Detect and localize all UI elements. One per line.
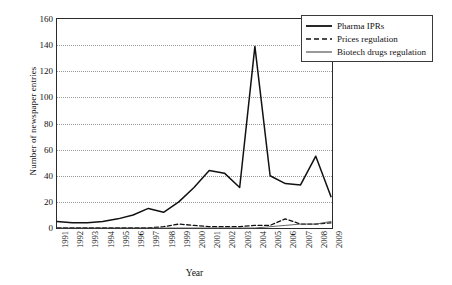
line-chart: Number of newspaper entries 020406080100… [0,0,452,285]
legend-label: Pharma IPRs [337,21,384,31]
y-axis-tick-label: 20 [44,197,53,207]
x-axis-tick-label: 2001 [212,231,222,248]
x-axis-tick-label: 2002 [227,231,237,248]
y-axis-tick-label: 40 [44,171,53,181]
x-axis-tick-label: 1995 [121,231,131,248]
legend-item[interactable]: Biotech drugs regulation [306,45,426,58]
x-axis-tick-label: 1999 [182,231,192,248]
x-axis-tick-label: 1991 [60,231,70,248]
y-axis-tick-label: 100 [40,92,54,102]
chart-legend: Pharma IPRsPrices regulationBiotech drug… [301,15,433,62]
legend-swatch-icon [306,34,332,44]
x-axis-tick-label: 2007 [304,231,314,248]
legend-label: Prices regulation [337,34,398,44]
y-axis-tick-label: 0 [49,223,54,233]
legend-swatch-icon [306,21,332,31]
x-axis-tick-label: 1998 [167,231,177,248]
x-axis-tick-label: 1994 [106,231,116,248]
y-axis-title: Number of newspaper entries [28,26,38,216]
y-axis-tick-label: 120 [40,66,54,76]
legend-swatch-icon [306,47,332,57]
legend-item[interactable]: Prices regulation [306,32,426,45]
x-axis-tick-label: 2000 [197,231,207,248]
x-axis-tick-label: 2004 [258,231,268,248]
y-axis-tick-label: 160 [40,14,54,24]
x-axis-tick-label: 1992 [75,231,85,248]
x-axis-tick-label: 1993 [90,231,100,248]
x-axis-tick-label: 1997 [151,231,161,248]
x-axis-tick-label: 2009 [334,231,344,248]
x-axis-tick-label: 2003 [243,231,253,248]
y-axis-tick-label: 140 [40,40,54,50]
x-axis-tick-label: 2005 [273,231,283,248]
y-axis-tick-label: 80 [44,119,53,129]
x-axis-tick-label: 2008 [319,231,329,248]
legend-item[interactable]: Pharma IPRs [306,19,426,32]
legend-label: Biotech drugs regulation [337,47,426,57]
y-axis-tick-label: 60 [44,145,53,155]
x-axis-tick-label: 1996 [136,231,146,248]
series-line [57,46,331,222]
x-axis-title: Year [56,268,333,278]
x-axis-tick-label: 2006 [288,231,298,248]
plot-area: 020406080100120140160 [56,18,333,229]
series-layer [57,19,332,228]
series-line [57,219,331,228]
